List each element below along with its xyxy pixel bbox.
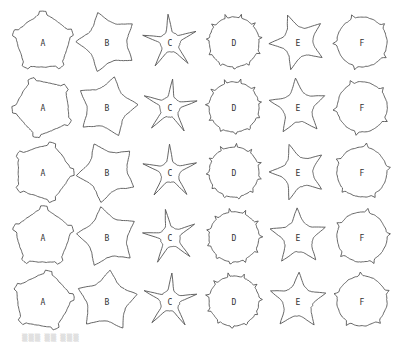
shape-label: B [105,169,110,178]
shape-e-row-2: E [269,78,325,132]
shape-label: F [360,298,365,307]
shape-label: C [168,39,173,48]
shape-e-row-1: E [269,15,322,70]
shape-grid-figure: AAAAABBBBBCCCCCDDDDDEEEEEFFFFF [0,0,400,346]
shape-b-row-4: B [77,207,135,265]
shape-label: F [360,234,365,243]
shape-d-row-2: D [205,79,261,134]
shape-c-row-4: C [143,209,195,262]
shape-d-row-1: D [206,14,262,69]
shape-label: F [360,169,365,178]
shape-d-row-5: D [206,273,263,328]
shape-label: B [105,234,110,243]
shape-label: E [296,234,301,243]
shape-label: C [168,234,173,243]
shape-d-row-4: D [207,209,263,264]
shape-b-row-5: B [78,270,137,328]
shape-e-row-3: E [269,144,322,199]
shape-b-row-2: B [81,77,139,136]
shape-f-row-2: F [333,81,387,136]
shape-d-row-3: D [206,143,261,199]
shape-label: E [296,104,301,113]
shape-label: A [41,104,46,113]
shape-label: A [41,169,46,178]
shape-label: A [41,234,46,243]
shape-c-row-3: C [143,144,197,195]
shape-label: E [296,39,301,48]
shape-b-row-3: B [76,144,133,202]
shape-a-row-2: A [12,78,71,138]
shape-c-row-2: C [144,79,197,131]
shape-label: D [232,234,237,243]
shape-label: D [232,298,237,307]
shape-e-row-5: E [271,272,326,325]
shape-f-row-1: F [333,15,387,70]
shape-label: E [296,298,301,307]
shape-label: B [105,39,110,48]
shape-label: D [232,39,237,48]
shape-label: D [232,169,237,178]
shape-label: A [41,298,46,307]
shape-c-row-5: C [144,273,197,325]
shape-a-row-4: A [13,206,74,264]
shape-e-row-4: E [270,208,325,261]
shape-a-row-5: A [14,270,74,330]
shape-f-row-3: F [336,143,390,198]
figure-caption: ▒▒▒ ▒▒ ▒▒▒ [22,334,80,342]
shape-label: B [105,104,110,113]
shape-a-row-3: A [16,142,74,203]
shape-c-row-1: C [143,14,196,66]
shape-label: D [232,104,237,113]
shape-label: C [168,169,173,178]
shape-label: A [41,39,46,48]
shape-label: E [296,169,301,178]
shape-f-row-4: F [337,208,391,263]
shape-label: B [105,298,110,307]
shape-a-row-1: A [13,11,74,69]
shape-label: C [168,298,173,307]
shape-label: F [360,39,365,48]
shape-b-row-1: B [76,13,132,72]
shape-f-row-5: F [334,272,389,326]
shape-label: C [168,104,173,113]
shape-label: F [360,104,365,113]
